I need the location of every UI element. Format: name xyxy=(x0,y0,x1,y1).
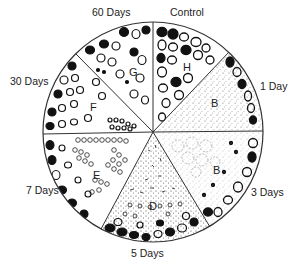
label-30-days: 30 Days xyxy=(10,75,49,87)
cells-7-days xyxy=(46,141,91,219)
letter-b-3-days: B xyxy=(213,164,220,176)
cells-30-days xyxy=(46,62,136,131)
cells-60-days xyxy=(86,26,151,104)
label-5-days: 5 Days xyxy=(131,247,164,259)
label-control: Control xyxy=(170,6,204,18)
sector-diagram xyxy=(0,0,295,266)
label-3-days: 3 Days xyxy=(251,186,284,198)
label-1-day: 1 Day xyxy=(260,80,287,92)
letter-d: D xyxy=(149,200,157,212)
letter-g: G xyxy=(129,66,138,78)
label-7-days: 7 Days xyxy=(26,184,59,196)
clusters-7-days xyxy=(73,138,129,195)
label-60-days: 60 Days xyxy=(92,6,131,18)
letter-b-1-day: B xyxy=(211,97,218,109)
letter-h: H xyxy=(183,61,191,73)
letter-f: F xyxy=(90,101,97,113)
letter-e: E xyxy=(93,169,100,181)
